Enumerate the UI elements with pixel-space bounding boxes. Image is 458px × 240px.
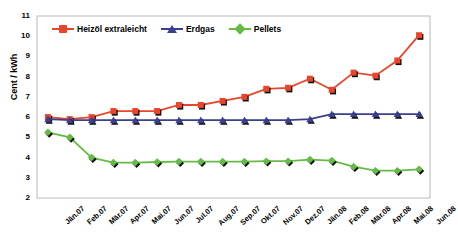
legend-swatch-icon [229,24,251,34]
legend-entry[interactable]: Erdgas [161,24,215,34]
legend-label: Erdgas [186,24,215,34]
legend-swatch-icon [52,24,74,34]
legend-label: Heizöl extraleicht [77,24,147,34]
chart-legend: Heizöl extraleichtErdgasPellets [52,24,281,34]
legend-label: Pellets [254,24,281,34]
legend-swatch-icon [161,24,183,34]
legend-entry[interactable]: Heizöl extraleicht [52,24,147,34]
legend-entry[interactable]: Pellets [229,24,281,34]
